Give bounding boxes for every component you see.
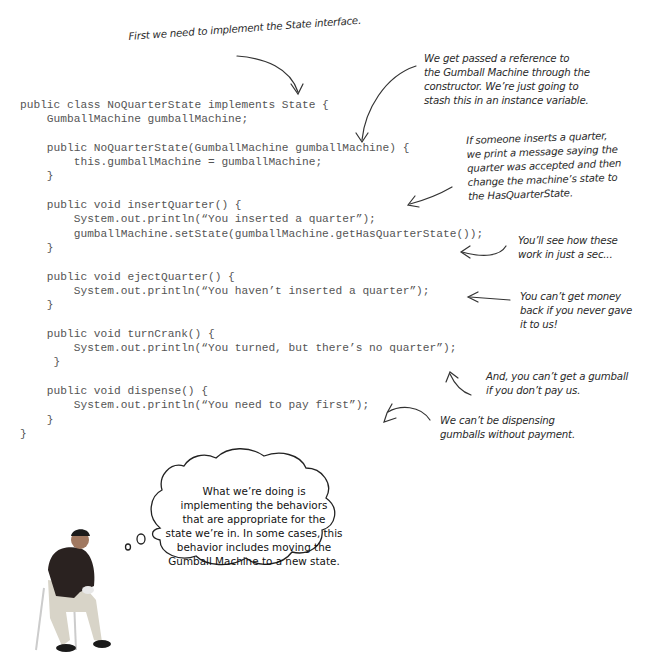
bubble-line: What we’re doing is xyxy=(154,484,354,498)
arrow-icon xyxy=(461,246,506,258)
thought-bubble-text: What we’re doing is implementing the beh… xyxy=(154,484,354,568)
arrow-icon xyxy=(237,56,303,94)
bubble-line: behavior includes moving the xyxy=(154,540,354,554)
arrow-icon xyxy=(468,292,510,302)
bubble-line: that are appropriate for the xyxy=(154,512,354,526)
arrow-icon xyxy=(384,404,430,422)
bubble-line: implementing the behaviors xyxy=(154,498,354,512)
arrow-icon xyxy=(408,187,452,207)
arrow-icon xyxy=(446,372,471,395)
arrow-icon xyxy=(356,66,416,142)
person-illustration xyxy=(36,529,111,652)
bubble-line: state we’re in. In some cases, this xyxy=(154,526,354,540)
bubble-line: Gumball Machine to a new state. xyxy=(154,554,354,568)
page: public class NoQuarterState implements S… xyxy=(0,0,660,663)
